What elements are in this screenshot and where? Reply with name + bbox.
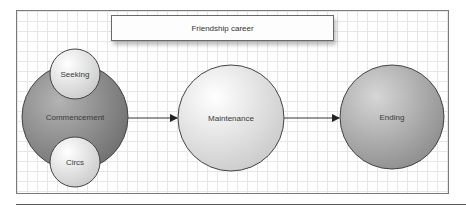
node-label: Maintenance [208,114,254,123]
node-label: Seeking [61,70,90,79]
node-seeking[interactable]: Seeking [50,49,100,99]
node-label: Commencement [46,113,105,122]
node-ending[interactable]: Ending [340,65,444,169]
flow-diagram: Commencement Seeking Circs Maintenance E… [0,0,466,208]
node-label: Ending [380,113,405,122]
node-circs[interactable]: Circs [50,137,100,187]
node-maintenance[interactable]: Maintenance [178,65,284,171]
node-label: Circs [66,158,84,167]
